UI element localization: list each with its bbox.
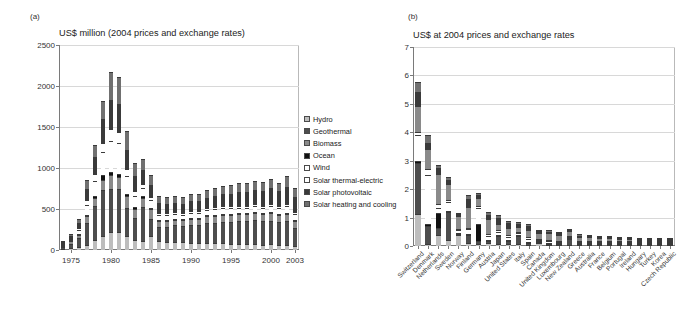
bar-segment (85, 189, 90, 200)
bar (577, 234, 582, 246)
x-tick-label: 1975 (62, 256, 80, 265)
bar-segment (285, 245, 290, 250)
bar (277, 183, 282, 250)
bar-segment (261, 245, 266, 250)
legend-swatch-icon (304, 189, 310, 195)
x-tick-mark (71, 250, 72, 253)
bar (285, 176, 290, 250)
bar-segment (133, 196, 138, 207)
bar-segment (101, 180, 106, 191)
bar-segment (149, 236, 154, 250)
y-tick-mark (410, 189, 413, 190)
x-tick-label: 1980 (102, 256, 120, 265)
bar (117, 77, 122, 250)
bar-segment (229, 222, 234, 244)
bar (293, 188, 298, 250)
legend-item: Ocean (304, 150, 396, 162)
x-tick-mark (650, 246, 651, 249)
bar-segment (133, 209, 138, 219)
bar-segment (245, 221, 250, 244)
bar-segment (173, 196, 178, 203)
bar-segment (415, 106, 420, 132)
bar-segment (415, 214, 420, 246)
bar (516, 222, 521, 246)
x-tick-mark (549, 246, 550, 249)
bar-segment (93, 157, 98, 174)
bar-segment (205, 190, 210, 198)
bar (415, 82, 420, 246)
legend-label: Geothermal (313, 127, 352, 136)
bar-segment (526, 230, 531, 237)
bar (133, 163, 138, 250)
bar-segment (293, 188, 298, 197)
bar-segment (285, 221, 290, 245)
bar-segment (269, 179, 274, 188)
bar-segment (93, 174, 98, 181)
bar (496, 215, 501, 246)
x-tick-mark (428, 246, 429, 249)
y-tick-mark (56, 250, 59, 251)
bar-segment (506, 228, 511, 235)
bar-segment (141, 198, 146, 208)
bar (125, 131, 130, 250)
bar-segment (425, 135, 430, 142)
panel-b-plot-area (413, 47, 675, 246)
bar-segment (117, 177, 122, 189)
bar-segment (117, 189, 122, 232)
legend-item: Hydro (304, 113, 396, 125)
bar-segment (425, 143, 430, 150)
x-tick-mark (569, 246, 570, 249)
bar-segment (237, 244, 242, 250)
y-tick-label: 1000 (35, 164, 55, 173)
bar-segment (109, 189, 114, 233)
bar (149, 175, 154, 250)
bar-segment (205, 223, 210, 243)
bar-segment (173, 203, 178, 212)
x-tick-label: 1990 (182, 256, 200, 265)
bar-segment (221, 194, 226, 206)
bar (546, 230, 551, 246)
x-tick-mark (271, 250, 272, 253)
x-tick-label: 2000 (262, 256, 280, 265)
panel-a-letter: (a) (30, 12, 40, 21)
bar-segment (245, 192, 250, 206)
bar-segment (277, 215, 282, 222)
bar (245, 183, 250, 250)
bar-segment (221, 215, 226, 222)
bar-segment (85, 180, 90, 189)
panel-a: (a) US$ million (2004 prices and exchang… (0, 0, 400, 317)
bar-segment (466, 199, 471, 206)
bar-segment (197, 243, 202, 250)
bar (253, 181, 258, 250)
bar-segment (109, 232, 114, 250)
bar-segment (436, 235, 441, 246)
y-tick-label: 0 (389, 242, 409, 251)
x-tick-mark (499, 246, 500, 249)
bar (556, 232, 561, 246)
legend: HydroGeothermalBiomassOceanWindSolar the… (304, 113, 396, 211)
bar-segment (173, 225, 178, 241)
bar-segment (476, 224, 481, 240)
bar-segment (125, 236, 130, 250)
bar-segment (466, 235, 471, 243)
bar (85, 180, 90, 250)
bar-segment (415, 92, 420, 106)
y-tick-mark (410, 75, 413, 76)
bar-segment (261, 221, 266, 244)
x-tick-mark (231, 250, 232, 253)
legend-swatch-icon (304, 165, 310, 171)
y-tick-mark (410, 47, 413, 48)
x-tick-mark (630, 246, 631, 249)
x-tick-mark (448, 246, 449, 249)
bar (69, 234, 74, 250)
y-tick-mark (56, 209, 59, 210)
bar-segment (269, 221, 274, 245)
bar (205, 190, 210, 250)
panel-b-letter: (b) (408, 12, 418, 21)
legend-item: Solar photovoltaic (304, 186, 396, 198)
bar-segment (285, 214, 290, 222)
bar-segment (446, 202, 451, 211)
bar-segment (141, 170, 146, 184)
bar-segment (213, 223, 218, 244)
bar-segment (293, 221, 298, 228)
